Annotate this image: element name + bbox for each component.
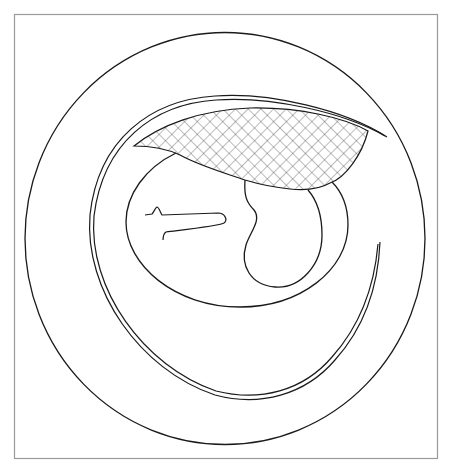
hatched-region [134, 108, 368, 190]
diagram-canvas: Schematic cross-section: outer circle en… [0, 0, 449, 467]
hook-line [145, 207, 226, 240]
outer-circle [25, 33, 425, 445]
diagram-svg [0, 0, 449, 467]
frame-border [15, 15, 438, 459]
kidney-lobe [244, 180, 322, 287]
